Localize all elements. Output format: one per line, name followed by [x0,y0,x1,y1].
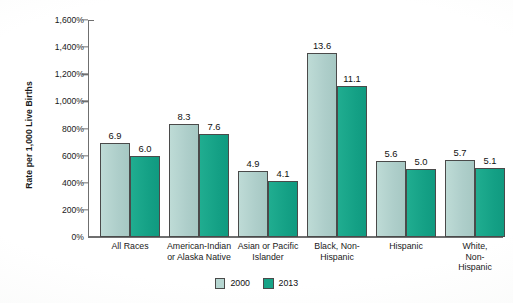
bar-value-label: 5.6 [384,148,397,159]
y-tick-label: 1,200% [30,69,84,79]
legend-swatch [215,278,226,289]
bar-value-label: 6.9 [108,130,121,141]
legend-swatch [263,278,274,289]
legend-label: 2013 [279,278,299,288]
y-tick-label: 0% [30,232,84,242]
bar [100,143,130,237]
y-tick-label: 1,400% [30,42,84,52]
bar-value-label: 4.9 [246,158,259,169]
bar [376,161,406,237]
bar-value-label: 7.6 [207,121,220,132]
y-tick-label: 1,000% [30,96,84,106]
bar [445,160,475,237]
bar-value-label: 5.0 [414,156,427,167]
bar-value-label: 4.1 [276,168,289,179]
y-tick-label: 800% [30,124,84,134]
y-tick-label: 1,600% [30,15,84,25]
plot-area: 6.96.08.37.64.94.113.611.15.65.05.75.1 [88,20,503,237]
legend-item: 2000 [215,278,250,289]
legend-label: 2000 [230,278,250,288]
bar [199,134,229,237]
y-tick-label: 400% [30,178,84,188]
bar-value-label: 6.0 [138,143,151,154]
bar-value-label: 8.3 [177,111,190,122]
bar [307,53,337,237]
chart-legend: 20002013 [0,278,513,289]
bar [268,181,298,237]
bar [406,169,436,237]
x-category-label: American-Indian or Alaska Native [167,241,231,262]
x-category-label: Asian or Pacific Islander [238,241,299,262]
bar-value-label: 13.6 [313,40,331,51]
legend-item: 2013 [263,278,298,289]
bar-value-label: 5.1 [483,155,496,166]
bar [130,156,160,237]
y-axis-tick-labels: 0%200%400%600%800%1,000%1,200%1,400%1,60… [29,0,84,303]
bar [169,124,199,237]
bar-value-label: 5.7 [453,147,466,158]
x-category-label: All Races [111,241,148,252]
bar-value-label: 11.1 [343,73,361,84]
bar-chart: Rate per 1,000 Live Births 0%200%400%600… [0,0,513,303]
y-tick-label: 200% [30,205,84,215]
x-category-label: Black, Non- Hispanic [314,241,359,262]
bar [238,171,268,237]
x-category-label: Hispanic [389,241,423,252]
x-category-label: White, Non- Hispanic [456,241,494,273]
y-tick-label: 600% [30,151,84,161]
bar [475,168,505,237]
bar [337,86,367,237]
